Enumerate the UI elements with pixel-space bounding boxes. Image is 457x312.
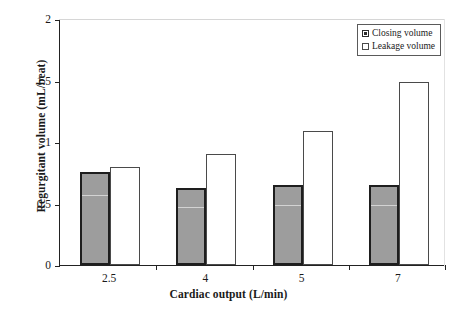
x-axis-tick: [349, 265, 350, 270]
x-axis-title: Cardiac output (L/min): [0, 288, 457, 300]
y-axis-tick-label: 1: [11, 137, 51, 149]
bar-highlight-streak: [371, 205, 397, 206]
bar-closing-volume: [80, 172, 110, 265]
y-axis-tick: [55, 20, 60, 21]
y-axis-tick: [55, 82, 60, 83]
bar-highlight-streak: [82, 195, 108, 196]
x-axis-tick: [445, 265, 446, 270]
bar-closing-volume: [273, 185, 303, 265]
chart-container: Regurgitant volume (mL/beat) 00.511.52 2…: [0, 0, 457, 312]
legend-label-leakage-volume: Leakage volume: [372, 41, 435, 52]
bar-closing-volume: [176, 188, 206, 265]
bar-highlight-streak: [275, 205, 301, 206]
plot-right-rule: [444, 19, 445, 267]
y-axis-tick: [55, 205, 60, 206]
x-axis-tick-label: 2.5: [79, 272, 139, 284]
x-axis-tick-label: 5: [272, 272, 332, 284]
chart-legend: Closing volume Leakage volume: [357, 24, 441, 56]
y-axis-tick-label: 0.5: [11, 199, 51, 211]
y-axis-tick-label: 2: [11, 14, 51, 26]
x-axis-tick: [156, 265, 157, 270]
bar-closing-volume: [369, 185, 399, 265]
empty-square-icon: [362, 43, 369, 50]
bar-leakage-volume: [303, 131, 333, 265]
y-axis-tick: [55, 266, 60, 267]
x-axis-tick: [253, 265, 254, 270]
x-axis-tick-label: 7: [368, 272, 428, 284]
legend-label-closing-volume: Closing volume: [372, 28, 432, 39]
legend-item-closing-volume: Closing volume: [362, 28, 435, 39]
bar-leakage-volume: [206, 154, 236, 265]
plot-area: [59, 20, 444, 266]
y-axis-tick-label: 0: [11, 260, 51, 272]
bar-highlight-streak: [178, 207, 204, 208]
legend-item-leakage-volume: Leakage volume: [362, 41, 435, 52]
x-axis-tick-label: 4: [175, 272, 235, 284]
y-axis-tick: [55, 143, 60, 144]
bar-leakage-volume: [110, 167, 140, 265]
bar-leakage-volume: [399, 82, 429, 265]
y-axis-tick-label: 1.5: [11, 76, 51, 88]
filled-square-icon: [362, 30, 369, 37]
